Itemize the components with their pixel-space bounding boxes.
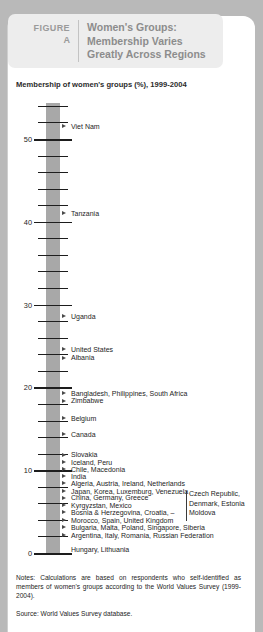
- data-point-marker: [62, 460, 66, 464]
- axis-tick-label: 0: [16, 549, 32, 558]
- data-point-label: Bosnia & Herzegovina, Croatia, –: [71, 509, 175, 517]
- data-point-marker: [62, 453, 66, 457]
- axis-tick-major: [34, 305, 72, 307]
- data-point-marker: [62, 211, 66, 215]
- axis-tick-minor: [38, 156, 68, 157]
- axis-tick-minor: [38, 421, 68, 422]
- data-point-marker: [62, 510, 66, 514]
- data-point-marker: [62, 518, 66, 522]
- axis-tick-minor: [38, 437, 68, 438]
- data-point-marker: [62, 399, 66, 403]
- data-point-marker: [62, 391, 66, 395]
- axis-tick-minor: [38, 338, 68, 339]
- data-point-marker: [62, 496, 66, 500]
- data-point-marker: [62, 347, 66, 351]
- data-point-label: Viet Nam: [71, 123, 100, 131]
- continuation-label: Czech Republic,: [189, 490, 240, 498]
- chart-notes: Notes: Calculations are based on respond…: [16, 573, 241, 601]
- axis-tick-minor: [38, 238, 68, 239]
- axis-tick-label: 20: [16, 383, 32, 392]
- data-point-label: Algeria, Austria, Ireland, Netherlands: [71, 480, 185, 488]
- data-point-marker: [62, 533, 66, 537]
- axis-tick-minor: [38, 255, 68, 256]
- data-point-label: Bulgaria, Malta, Poland, Singapore, Sibe…: [71, 524, 205, 532]
- continuation-label: Denmark, Estonia: [189, 500, 245, 508]
- axis-tick-minor: [38, 487, 68, 488]
- data-point-marker: [62, 432, 66, 436]
- figure-page: FIGURE A Women's Groups: Membership Vari…: [0, 0, 263, 632]
- data-point-marker: [62, 356, 66, 360]
- axis-tick-label: 50: [16, 135, 32, 144]
- axis-tick-label: 30: [16, 301, 32, 310]
- data-point-label: United States: [71, 346, 113, 354]
- data-point-marker: [62, 503, 66, 507]
- axis-tick-minor: [38, 189, 68, 190]
- axis-tick-label: 10: [16, 466, 32, 475]
- axis-tick-major: [34, 470, 72, 472]
- axis-tick-minor: [38, 288, 68, 289]
- data-point-marker: [62, 489, 66, 493]
- data-point-label: Bangladesh, Philippines, South Africa: [71, 390, 187, 398]
- continuation-divider: [186, 491, 187, 521]
- axis-tick-major: [34, 387, 72, 389]
- axis-tick-minor: [38, 321, 68, 322]
- data-point-marker: [62, 416, 66, 420]
- data-point-label: Kyrgyzstan, Mexico: [71, 502, 132, 510]
- data-point-label: Morocco, Spain, United Kingdom: [71, 517, 173, 525]
- axis-tick-minor: [38, 404, 68, 405]
- data-point-label: Hungary, Lithuania: [71, 546, 129, 554]
- data-point-label: India: [71, 473, 86, 481]
- axis-tick-minor: [38, 371, 68, 372]
- data-point-marker: [62, 525, 66, 529]
- axis-tick-label: 40: [16, 218, 32, 227]
- data-point-label: Canada: [71, 431, 96, 439]
- data-point-marker: [62, 124, 66, 128]
- axis-tick-major: [34, 139, 72, 141]
- axis-tick-minor: [38, 106, 68, 107]
- axis-tick-major: [34, 553, 72, 555]
- data-point-marker: [62, 314, 66, 318]
- chart-plot-area: 50403020100 Viet NamTanzaniaUgandaUnited…: [0, 0, 263, 632]
- data-point-marker: [62, 481, 66, 485]
- data-point-label: Argentina, Italy, Romania, Russian Feder…: [71, 532, 214, 540]
- axis-tick-major: [34, 222, 72, 224]
- chart-source: Source: World Values Survey database.: [16, 609, 241, 618]
- data-point-marker: [62, 467, 66, 471]
- data-point-label: Tanzania: [71, 210, 99, 218]
- data-point-label: China, Germany, Greece: [71, 494, 148, 502]
- continuation-label: Moldova: [189, 509, 215, 517]
- data-point-label: Slovakia: [71, 451, 97, 459]
- axis-tick-minor: [38, 205, 68, 206]
- data-point-label: Uganda: [71, 313, 96, 321]
- data-point-label: Belgium: [71, 415, 96, 423]
- axis-tick-minor: [38, 172, 68, 173]
- data-point-marker: [62, 474, 66, 478]
- data-point-label: Albania: [71, 354, 94, 362]
- data-point-label: Zimbabwe: [71, 397, 103, 405]
- axis-tick-minor: [38, 271, 68, 272]
